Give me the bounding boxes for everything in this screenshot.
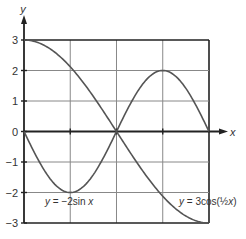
y-tick-label: −1 [5,156,18,168]
y-tick-label: −3 [5,217,18,229]
x-axis-label: x [229,126,236,138]
x-axis-arrow [219,129,228,135]
y-tick-label: 2 [12,65,18,77]
axes [21,15,228,223]
y-axis-label: y [19,3,27,15]
annotation-neg-2sin: y = −2sin x [44,196,94,207]
y-tick-label: 1 [12,95,18,107]
y-axis-arrow [21,15,27,24]
annotation-3cos-half: y = 3cos(½x) [178,196,237,207]
chart: −3−2−10123 y x y = −2sin x y = 3cos(½x) [0,0,246,239]
y-tick-label: 0 [12,126,18,138]
y-tick-label: −2 [5,187,18,199]
y-tick-label: 3 [12,34,18,46]
